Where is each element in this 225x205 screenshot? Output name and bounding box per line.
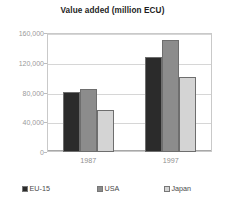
- bar-japan-1997: [179, 77, 196, 152]
- legend-item-japan[interactable]: Japan: [164, 184, 191, 193]
- legend-item-eu-15[interactable]: EU-15: [22, 184, 50, 193]
- y-axis-tick-mark: [44, 152, 47, 153]
- x-axis-tick-label: 1987: [47, 156, 130, 165]
- bar-group: [47, 33, 130, 152]
- y-axis-tick-label: 40,000: [2, 119, 44, 126]
- bar-usa-1987: [80, 89, 97, 152]
- legend-swatch-icon: [164, 186, 170, 192]
- bar-eu-15-1997: [145, 57, 162, 152]
- chart-legend: EU-15USAJapan: [0, 184, 225, 198]
- y-axis-tick-label: 120,000: [2, 59, 44, 66]
- bar-group: [130, 33, 213, 152]
- x-axis-tick-label: 1997: [130, 156, 213, 165]
- bar-usa-1997: [162, 40, 179, 152]
- y-axis-tick-label: 80,000: [2, 89, 44, 96]
- bar-chart: Value added (million ECU) 040,00080,0001…: [0, 0, 225, 205]
- bar-eu-15-1987: [63, 92, 80, 152]
- legend-label: USA: [105, 184, 120, 193]
- legend-item-usa[interactable]: USA: [97, 184, 119, 193]
- y-axis: 040,00080,000120,000160,000: [0, 33, 44, 152]
- legend-swatch-icon: [97, 186, 103, 192]
- y-axis-tick-label: 0: [2, 149, 44, 156]
- y-axis-tick-label: 160,000: [2, 30, 44, 37]
- legend-swatch-icon: [22, 186, 28, 192]
- bars-layer: [47, 33, 212, 152]
- legend-label: Japan: [172, 184, 192, 193]
- bar-japan-1987: [97, 110, 114, 152]
- legend-label: EU-15: [30, 184, 50, 193]
- chart-title: Value added (million ECU): [0, 6, 225, 15]
